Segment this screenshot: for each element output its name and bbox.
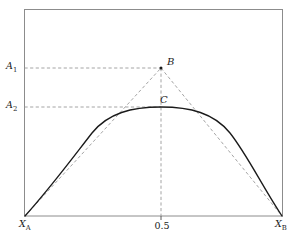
axis-tick-label-midpoint: 0.5 <box>150 221 174 231</box>
axis-label-a1-subscript: 1 <box>13 66 17 74</box>
axis-label-a1: A1 <box>6 61 17 74</box>
axis-label-xb-base: X <box>275 218 282 229</box>
axis-label-a2-base: A <box>6 99 13 110</box>
point-label-b: B <box>167 57 174 67</box>
axis-label-a1-base: A <box>6 60 13 71</box>
axis-label-a2: A2 <box>6 100 17 113</box>
axis-label-xa-base: X <box>19 218 26 229</box>
point-label-c: C <box>160 95 168 105</box>
axis-label-xa: XA <box>19 219 31 232</box>
axis-label-xa-subscript: A <box>26 224 31 232</box>
plot-canvas <box>0 0 300 247</box>
point-b-marker <box>160 67 163 70</box>
axis-label-a2-subscript: 2 <box>13 105 17 113</box>
axis-label-xb-subscript: B <box>282 224 287 232</box>
axis-label-xb: XB <box>275 219 287 232</box>
figure-container: A1 A2 B C XA XB 0.5 <box>0 0 300 247</box>
plot-frame <box>25 10 283 217</box>
